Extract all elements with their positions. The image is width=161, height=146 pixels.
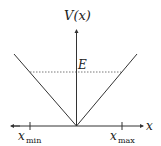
xmax-subscript: max xyxy=(118,136,135,145)
potential-diagram: V(x) E x x min x max xyxy=(0,0,161,146)
xmax-label: x xyxy=(110,129,117,143)
energy-label: E xyxy=(77,58,87,72)
xmin-subscript: min xyxy=(26,136,41,145)
y-axis-label: V(x) xyxy=(64,8,91,23)
potential-left-branch xyxy=(14,54,77,126)
x-axis-label: x xyxy=(146,119,153,133)
xmin-label: x xyxy=(18,129,25,143)
